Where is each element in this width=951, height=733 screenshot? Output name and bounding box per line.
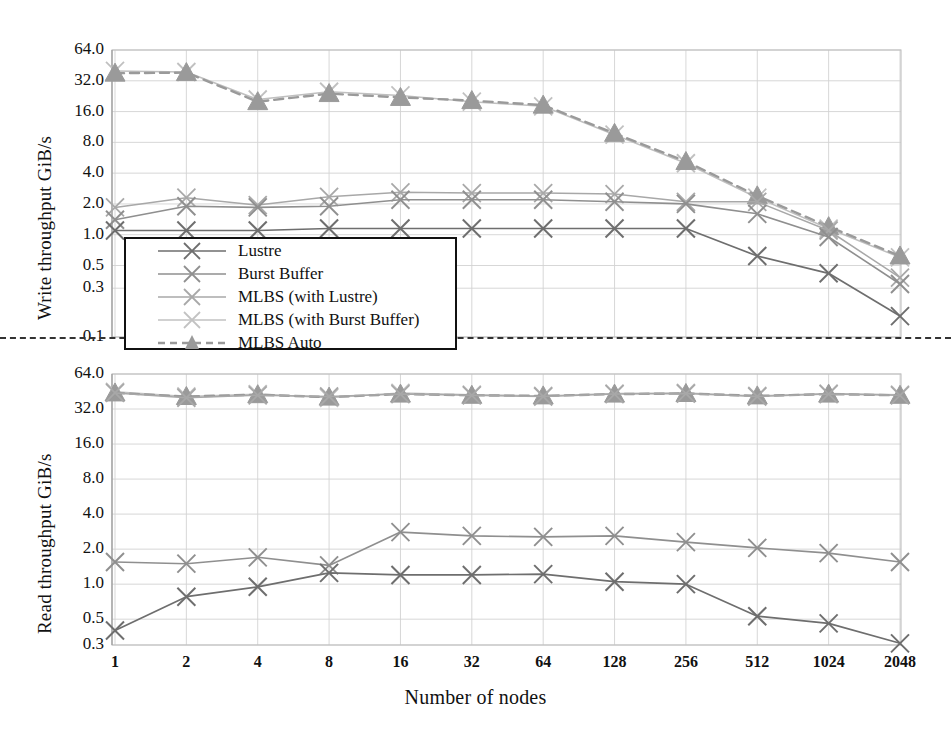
legend-item-2[interactable]: MLBS (with Lustre) [126,286,455,308]
legend-triangle-icon [156,333,228,353]
write-y-tick-label: 16.0 [42,101,104,121]
x-tick-label: 64 [513,653,573,671]
read-y-tick-label: 32.0 [42,398,104,418]
x-tick-label: 2048 [870,653,930,671]
write-y-tick-label: 32.0 [42,70,104,90]
write-y-tick-label: 2.0 [42,193,104,213]
read-y-tick-label: 2.0 [42,538,104,558]
legend-label: MLBS Auto [238,333,322,353]
x-tick-label: 128 [585,653,645,671]
x-tick-label: 4 [228,653,288,671]
read-y-tick-label: 4.0 [42,503,104,523]
series-line-lustre [115,573,900,643]
legend-label: MLBS (with Lustre) [238,287,378,307]
figure-root: Write throughput GiB/s Read throughput G… [0,0,951,733]
write-y-tick-label: 0.5 [42,255,104,275]
x-tick-label: 1 [85,653,145,671]
legend-x-icon [156,310,228,330]
write-y-tick-label: 64.0 [42,39,104,59]
legend-item-1[interactable]: Burst Buffer [126,263,455,285]
write-y-tick-label: 1.0 [42,224,104,244]
read-y-tick-label: 0.3 [42,634,104,654]
legend: LustreBurst BufferMLBS (with Lustre)MLBS… [124,237,457,350]
x-tick-label: 2 [156,653,216,671]
read-y-tick-label: 16.0 [42,433,104,453]
read-y-tick-label: 8.0 [42,468,104,488]
x-tick-label: 1024 [799,653,859,671]
legend-x-icon [156,287,228,307]
read-y-tick-label: 64.0 [42,363,104,383]
legend-item-4[interactable]: MLBS Auto [126,332,455,354]
write-y-tick-label: 4.0 [42,162,104,182]
series-line-mlbs_bb [115,71,900,258]
legend-item-3[interactable]: MLBS (with Burst Buffer) [126,309,455,331]
x-tick-label: 256 [656,653,716,671]
x-tick-label: 8 [299,653,359,671]
write-y-tick-label: 0.1 [42,326,104,346]
write-y-tick-label: 0.3 [42,277,104,297]
legend-x-icon [156,241,228,261]
read-y-tick-label: 0.5 [42,608,104,628]
legend-label: Lustre [238,241,281,261]
legend-label: MLBS (with Burst Buffer) [238,310,420,330]
x-tick-label: 16 [370,653,430,671]
legend-label: Burst Buffer [238,264,323,284]
read-y-tick-label: 1.0 [42,573,104,593]
panel-frame [112,374,901,645]
write-y-tick-label: 8.0 [42,131,104,151]
x-tick-label: 32 [442,653,502,671]
x-tick-label: 512 [727,653,787,671]
legend-x-icon [156,264,228,284]
legend-item-0[interactable]: Lustre [126,240,455,262]
data-point-marker-triangle [462,91,482,109]
panel-read [105,374,910,652]
plot-surface [0,0,951,733]
